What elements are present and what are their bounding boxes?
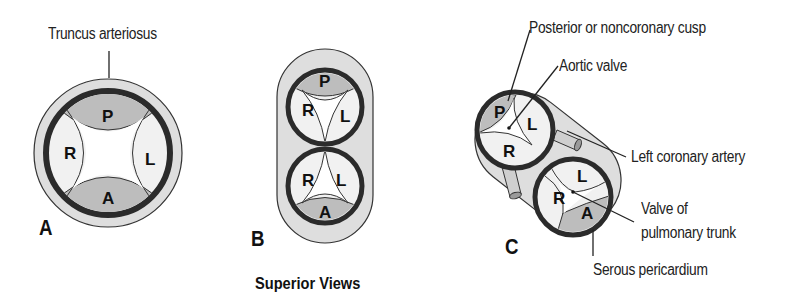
label-pulmonary-valve-line1: Valve of <box>641 200 688 218</box>
cusp-label-a: A <box>102 189 114 208</box>
aortic-label-r: R <box>503 142 515 161</box>
label-serous-pericardium: Serous pericardium <box>593 261 708 279</box>
cusp-label-p: P <box>102 107 113 126</box>
upper-label-r: R <box>302 101 314 120</box>
panel-letter-b: B <box>251 226 265 252</box>
pulmonary-label-l: L <box>577 167 587 186</box>
upper-label-l: L <box>340 107 350 126</box>
label-truncus-arteriosus: Truncus arteriosus <box>48 25 157 43</box>
lower-label-a: A <box>319 203 331 222</box>
aortic-label-p: P <box>494 103 505 122</box>
panel-letter-a: A <box>39 215 53 241</box>
cusp-label-l: L <box>145 150 155 169</box>
lower-label-r: R <box>302 171 314 190</box>
pulmonary-label-r: R <box>553 189 565 208</box>
label-left-coronary-artery: Left coronary artery <box>631 148 745 166</box>
upper-label-p: P <box>319 72 330 91</box>
aortic-label-l: L <box>527 115 537 134</box>
pulmonary-label-a: A <box>581 204 593 223</box>
panel-a-truncus: P R L A <box>34 51 182 230</box>
panel-letter-c: C <box>505 234 519 260</box>
panel-b-septation: P R L R L A <box>277 49 373 243</box>
lower-label-l: L <box>336 171 346 190</box>
label-aortic-valve: Aortic valve <box>559 57 627 75</box>
label-posterior-cusp: Posterior or noncoronary cusp <box>529 19 706 37</box>
caption-superior-views: Superior Views <box>255 274 360 294</box>
cusp-label-r: R <box>64 144 76 163</box>
label-pulmonary-valve-line2: pulmonary trunk <box>641 224 736 242</box>
